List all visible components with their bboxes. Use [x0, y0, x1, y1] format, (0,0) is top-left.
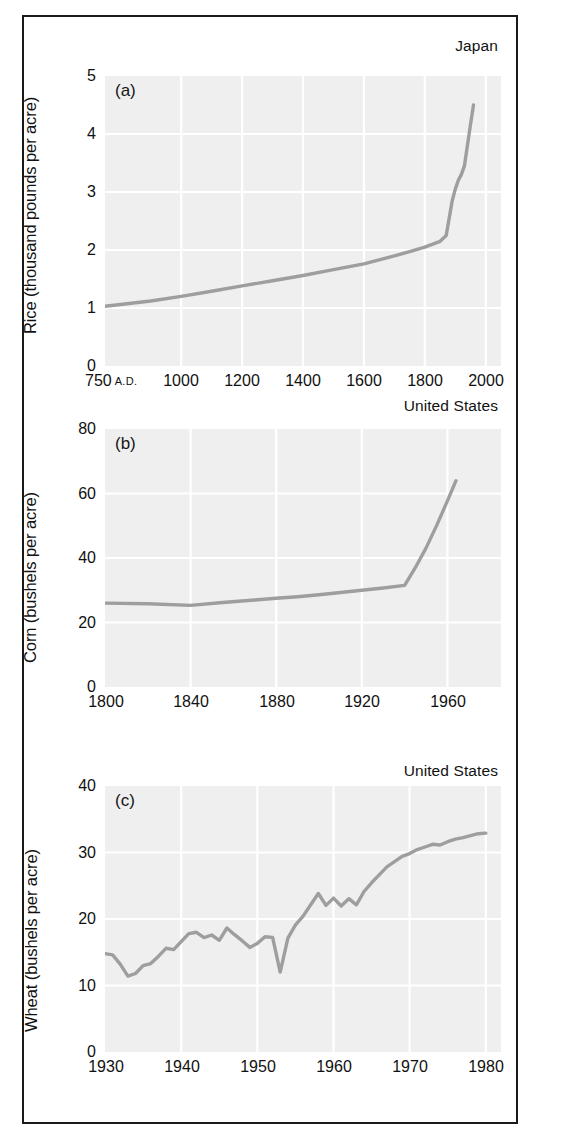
- plot-area-corn: (b): [105, 429, 501, 687]
- y-axis-title-corn: Corn (bushels per acre): [18, 395, 44, 760]
- rice-ytick-2: 2: [56, 242, 96, 258]
- wheat-xtick-1960: 1960: [316, 1059, 352, 1075]
- chart-panel-wheat: United States Wheat (bushels per acre) (…: [24, 760, 520, 1120]
- panel-letter-a: (a): [115, 81, 136, 101]
- panel-letter-c: (c): [115, 791, 135, 811]
- y-axis-title-corn-text: Corn (bushels per acre): [22, 492, 41, 663]
- country-label-united-states-corn: United States: [404, 397, 498, 415]
- rice-xtick-750: 750: [85, 372, 112, 389]
- rice-ytick-5: 5: [56, 68, 96, 84]
- y-axis-title-wheat-text: Wheat (bushels per acre): [22, 849, 41, 1032]
- rice-xtick-750-with-ad: 750A.D.: [85, 373, 137, 389]
- corn-xtick-1840: 1840: [173, 694, 209, 710]
- rice-xtick-1200: 1200: [224, 373, 260, 389]
- rice-xtick-1400: 1400: [285, 373, 321, 389]
- panel-letter-b: (b): [115, 434, 136, 454]
- wheat-xtick-1970: 1970: [392, 1059, 428, 1075]
- rice-ytick-3: 3: [56, 184, 96, 200]
- y-axis-title-wheat: Wheat (bushels per acre): [18, 760, 44, 1120]
- country-label-united-states-wheat: United States: [404, 762, 498, 780]
- wheat-data-line: [105, 833, 486, 976]
- rice-data-line: [105, 105, 474, 306]
- wheat-xtick-1930: 1930: [88, 1059, 124, 1075]
- chart-panel-rice: Japan Rice (thousand pounds per acre) (a…: [24, 35, 520, 395]
- rice-xtick-1800: 1800: [407, 373, 443, 389]
- rice-gridlines-vertical: [181, 76, 486, 366]
- corn-xtick-1800: 1800: [88, 694, 124, 710]
- country-label-japan: Japan: [455, 37, 498, 55]
- figure-frame: Japan Rice (thousand pounds per acre) (a…: [22, 15, 518, 1124]
- wheat-ytick-20: 20: [56, 911, 96, 927]
- wheat-gridlines-horizontal: [105, 853, 501, 986]
- wheat-xtick-1950: 1950: [240, 1059, 276, 1075]
- wheat-xtick-1940: 1940: [164, 1059, 200, 1075]
- wheat-ytick-10: 10: [56, 978, 96, 994]
- corn-ytick-40: 40: [56, 550, 96, 566]
- corn-xtick-1920: 1920: [344, 694, 380, 710]
- wheat-ytick-40: 40: [56, 778, 96, 794]
- y-axis-title-rice-text: Rice (thousand pounds per acre): [22, 96, 41, 333]
- wheat-xtick-1980: 1980: [468, 1059, 504, 1075]
- corn-xtick-1960: 1960: [430, 694, 466, 710]
- rice-xtick-1000: 1000: [163, 373, 199, 389]
- rice-plot-svg: [105, 76, 501, 366]
- plot-area-rice: (a): [105, 76, 501, 366]
- wheat-plot-svg: [105, 786, 501, 1052]
- corn-data-line: [105, 481, 456, 606]
- rice-xtick-2000: 2000: [468, 373, 504, 389]
- rice-xtick-ad-annotation: A.D.: [115, 375, 138, 387]
- y-axis-title-rice: Rice (thousand pounds per acre): [18, 35, 44, 395]
- plot-area-wheat: (c): [105, 786, 501, 1052]
- rice-xtick-1600: 1600: [346, 373, 382, 389]
- corn-ytick-60: 60: [56, 486, 96, 502]
- chart-panel-corn: United States Corn (bushels per acre) (b…: [24, 395, 520, 760]
- corn-xtick-1880: 1880: [259, 694, 295, 710]
- rice-ytick-1: 1: [56, 300, 96, 316]
- rice-ytick-4: 4: [56, 126, 96, 142]
- corn-ytick-20: 20: [56, 615, 96, 631]
- corn-plot-svg: [105, 429, 501, 687]
- wheat-ytick-30: 30: [56, 845, 96, 861]
- corn-ytick-80: 80: [56, 421, 96, 437]
